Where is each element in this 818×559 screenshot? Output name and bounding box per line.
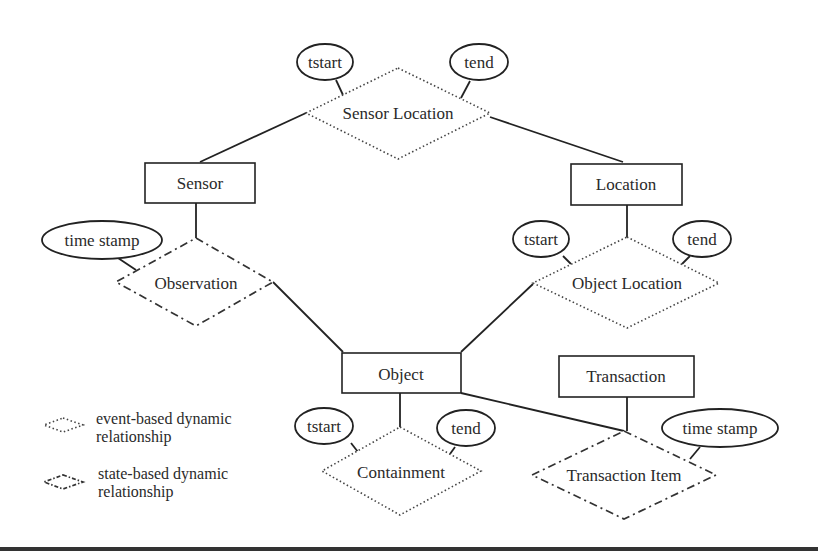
state-diamond-icon <box>44 475 83 489</box>
attribute-label: tstart <box>524 230 558 249</box>
attribute-label: tend <box>451 419 481 438</box>
er-diagram: Sensor Location tstart tend Sensor Locat… <box>0 0 818 559</box>
legend-label: event-based dynamic <box>96 410 232 428</box>
relationship-label: Observation <box>154 274 238 293</box>
legend-label: relationship <box>96 428 172 446</box>
entity-sensor[interactable]: Sensor <box>145 163 255 203</box>
attribute-label: time stamp <box>64 231 139 250</box>
event-diamond-icon <box>44 418 83 432</box>
legend-label: relationship <box>98 483 174 501</box>
entity-label: Transaction <box>586 367 666 386</box>
stem <box>351 443 358 452</box>
entity-object[interactable]: Object <box>342 353 461 393</box>
attribute-label: time stamp <box>682 419 757 438</box>
attribute-label: tstart <box>307 417 341 436</box>
legend-event-based: event-based dynamic relationship <box>44 410 232 446</box>
attribute-label: tend <box>687 230 717 249</box>
attribute-tstart[interactable]: tstart <box>513 221 569 257</box>
attribute-tend[interactable]: tend <box>437 410 495 446</box>
attribute-time-stamp[interactable]: time stamp <box>662 409 778 447</box>
stem <box>563 256 571 264</box>
relationship-label: Sensor Location <box>343 104 454 123</box>
object-location-to-object-line <box>461 284 533 352</box>
attribute-tend[interactable]: tend <box>450 44 508 80</box>
stem <box>682 256 690 264</box>
attribute-label: tend <box>464 53 494 72</box>
stem <box>690 447 700 459</box>
attribute-tend[interactable]: tend <box>673 221 731 257</box>
attribute-time-stamp[interactable]: time stamp <box>42 221 162 259</box>
entity-transaction[interactable]: Transaction <box>559 356 694 397</box>
entity-label: Location <box>596 175 657 194</box>
stem <box>450 447 455 454</box>
bottom-divider <box>0 547 818 551</box>
legend: event-based dynamic relationship state-b… <box>44 410 232 501</box>
observation-to-object-line <box>273 282 343 352</box>
legend-state-based: state-based dynamic relationship <box>44 465 228 501</box>
attribute-label: tstart <box>308 53 342 72</box>
relationship-label: Transaction Item <box>566 466 681 485</box>
relationship-sensor-location[interactable]: Sensor Location <box>306 68 490 159</box>
sensor-to-sensor-location-line <box>200 113 306 162</box>
entity-label: Sensor <box>177 174 224 193</box>
attribute-tstart[interactable]: tstart <box>295 408 353 444</box>
legend-label: state-based dynamic <box>98 465 228 483</box>
stem <box>118 258 136 270</box>
relationship-label: Object Location <box>572 274 682 293</box>
sensor-location-to-location-line <box>490 117 623 162</box>
entity-label: Object <box>378 365 424 384</box>
stem <box>336 80 343 95</box>
relationship-label: Containment <box>357 463 445 482</box>
attribute-tstart[interactable]: tstart <box>297 44 353 80</box>
entity-location[interactable]: Location <box>571 164 682 205</box>
stem <box>461 81 470 98</box>
